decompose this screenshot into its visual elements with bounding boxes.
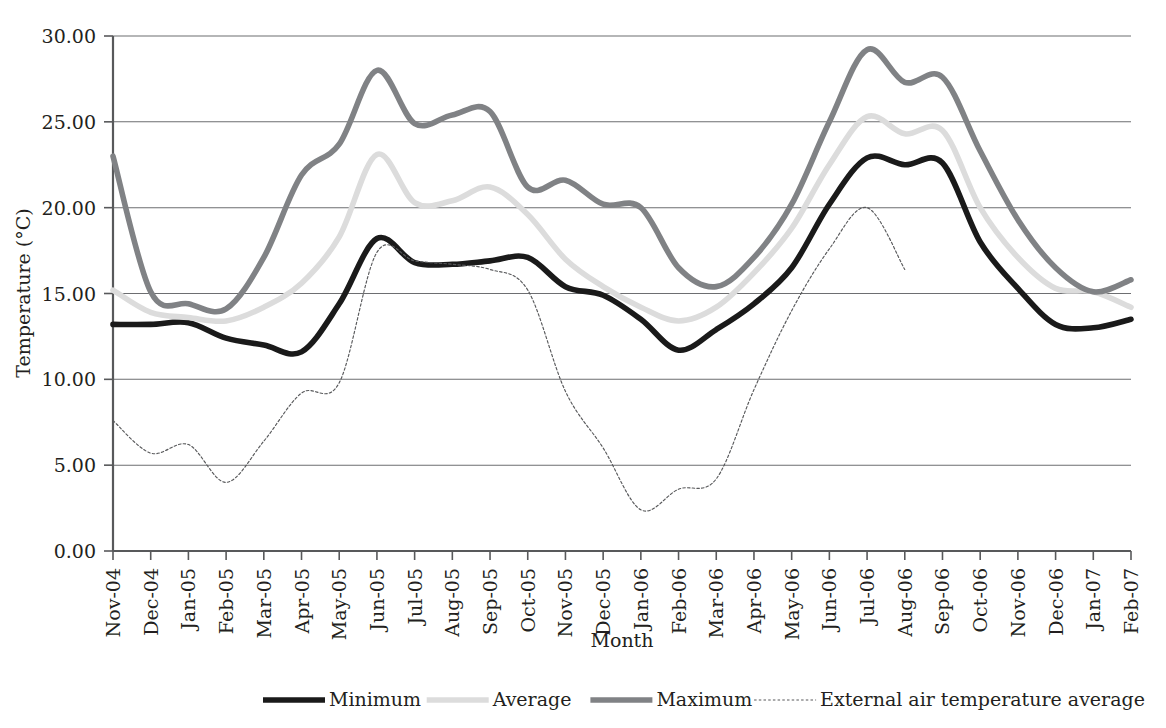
x-axis-tick-label: Sep-05 — [479, 568, 501, 635]
x-axis-tick-label: Feb-05 — [215, 568, 237, 634]
x-axis-tick-label: Oct-05 — [517, 568, 539, 632]
x-axis-tick-label: Sep-06 — [931, 568, 953, 635]
x-axis-tick-label: Jan-06 — [630, 568, 652, 632]
x-axis-tick-label: Oct-06 — [969, 568, 991, 632]
line-chart: 0.005.0010.0015.0020.0025.0030.00 Nov-04… — [0, 0, 1166, 728]
x-axis-tick-label: Feb-06 — [668, 568, 690, 634]
x-axis-tick-label: May-05 — [328, 568, 350, 640]
x-axis-tick-label: Jan-05 — [177, 568, 199, 632]
x-axis-tick-label: Nov-04 — [102, 568, 124, 637]
x-axis-tick-label: Dec-05 — [592, 568, 614, 636]
legend-label-external-air-temperature-average: External air temperature average — [820, 688, 1145, 710]
chart-legend: MinimumAverageMaximumExternal air temper… — [263, 688, 1145, 710]
x-axis-tick-label: May-06 — [781, 568, 803, 640]
y-axis-tick-label: 5.00 — [54, 454, 96, 476]
x-axis-tick-label: Jun-05 — [366, 568, 388, 633]
legend-label-minimum: Minimum — [329, 688, 421, 710]
y-axis-tick-label: 20.00 — [42, 197, 96, 219]
y-axis-tick-label: 30.00 — [42, 25, 96, 47]
chart-container: 0.005.0010.0015.0020.0025.0030.00 Nov-04… — [0, 0, 1166, 728]
data-series — [113, 49, 1131, 511]
y-axis-tick-label: 0.00 — [54, 540, 96, 562]
legend-label-average: Average — [492, 688, 572, 710]
x-axis-tick-label: Apr-05 — [291, 568, 313, 635]
x-axis-tick-label: Aug-06 — [894, 568, 916, 638]
x-axis-tick-label: Mar-06 — [705, 568, 727, 638]
x-axis-tick-label: Mar-05 — [253, 568, 275, 638]
x-axis-tick-label: Nov-05 — [554, 568, 576, 637]
y-axis-ticks — [104, 36, 113, 551]
x-axis-tick-label: Jun-06 — [818, 568, 840, 633]
x-axis-tick-label: Dec-04 — [140, 568, 162, 636]
x-axis-tick-label: Jul-06 — [856, 568, 878, 627]
y-axis-tick-labels: 0.005.0010.0015.0020.0025.0030.00 — [42, 25, 96, 562]
y-axis-tick-label: 25.00 — [42, 111, 96, 133]
x-axis-title: Month — [590, 629, 653, 651]
x-axis-ticks — [113, 551, 1131, 560]
x-axis-tick-label: Aug-05 — [441, 568, 463, 638]
series-line-maximum — [113, 49, 1131, 312]
y-axis-tick-label: 15.00 — [42, 283, 96, 305]
y-axis-tick-label: 10.00 — [42, 368, 96, 390]
x-axis-tick-label: Jul-05 — [404, 568, 426, 627]
x-axis-tick-label: Feb-07 — [1120, 568, 1142, 634]
x-axis-tick-label: Nov-06 — [1007, 568, 1029, 637]
x-axis-tick-label: Jan-07 — [1082, 568, 1104, 632]
legend-label-maximum: Maximum — [656, 688, 752, 710]
y-axis-title: Temperature (°C) — [12, 208, 34, 377]
x-axis-tick-label: Apr-06 — [743, 568, 765, 635]
x-axis-tick-label: Dec-06 — [1045, 568, 1067, 636]
